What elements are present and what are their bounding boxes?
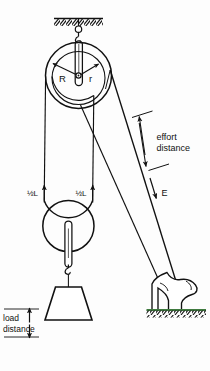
rope-right-fall <box>93 96 94 201</box>
label-effort-distance-line1: effort <box>157 132 178 142</box>
effort-distance-arrow-down <box>139 123 146 167</box>
effort-distance-tick-top <box>132 111 153 118</box>
effort-rope-outer <box>110 70 176 283</box>
label-load-distance-line2: distance <box>3 324 35 334</box>
lower-block-strap <box>65 221 72 267</box>
ground-hatching <box>147 311 207 318</box>
effort-force-arrow <box>150 178 156 199</box>
label-half-L-right: ½L <box>75 189 87 198</box>
pulley-diagram-svg: R r effort dista <box>0 0 210 371</box>
ground <box>147 310 207 318</box>
label-big-radius-R: R <box>59 73 66 84</box>
label-effort-distance-line2: distance <box>157 143 191 153</box>
effort-distance-arrow-up <box>139 117 145 156</box>
label-half-L-left: ½L <box>27 189 39 198</box>
effort-force-arrowhead <box>150 178 156 199</box>
rope-wrap-lower-pulley <box>44 201 92 218</box>
trapezoid-load <box>45 287 92 320</box>
upper-pulley-axle-pin <box>78 75 80 77</box>
label-load-distance-line1: load <box>3 313 19 323</box>
load-body <box>45 287 92 320</box>
upper-block-strap <box>75 41 82 86</box>
label-small-radius-r: r <box>89 73 92 84</box>
load-hook <box>65 265 70 288</box>
effort-distance-tick-bottom <box>149 164 170 171</box>
rope-left-fall <box>44 77 45 201</box>
label-effort-force-E: E <box>162 188 168 198</box>
pulley-diagram-figure: R r effort dista <box>0 0 210 371</box>
